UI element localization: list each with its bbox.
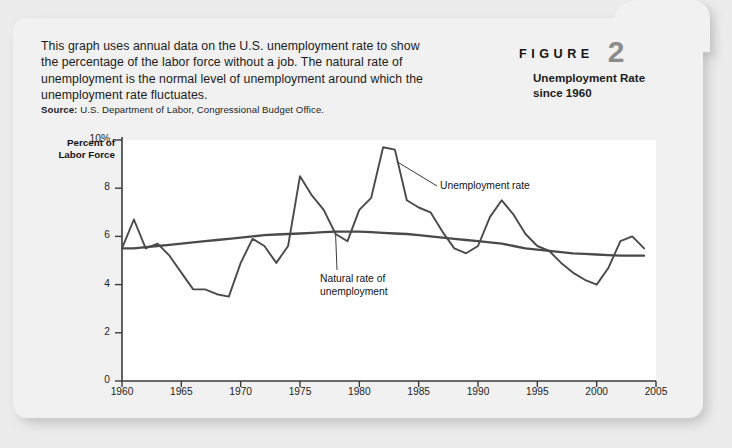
- plot-svg: [0, 0, 732, 448]
- x-axis-ticks: [122, 381, 656, 387]
- chart: Percent of Labor Force 0246810% 19601965…: [0, 0, 732, 448]
- figure-page: This graph uses annual data on the U.S. …: [0, 0, 732, 448]
- y-axis-ticks: [115, 140, 122, 381]
- axes: [115, 137, 656, 387]
- natural-rate-line: [122, 232, 644, 256]
- annotation-natural-rate: Natural rate of unemployment: [320, 272, 430, 299]
- annotation-unemployment-rate: Unemployment rate: [440, 179, 530, 192]
- natural-rate-leader-line: [336, 235, 337, 270]
